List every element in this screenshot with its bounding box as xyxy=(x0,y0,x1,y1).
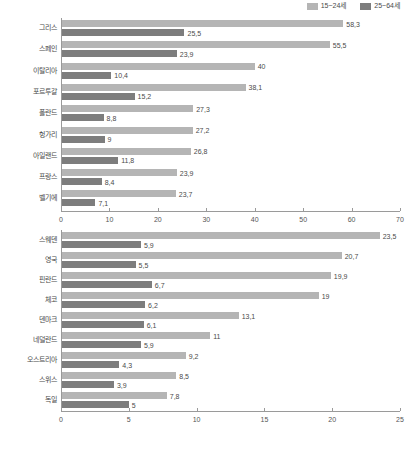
bar-series-15-24 xyxy=(61,252,342,259)
bar-series-25-64 xyxy=(61,178,102,185)
bar-value-label: 10,4 xyxy=(114,72,128,79)
bar-value-label: 19,9 xyxy=(334,272,348,279)
x-axis-tick xyxy=(400,408,401,411)
bar-value-label: 5,9 xyxy=(144,341,154,348)
category-label: 네덜란드 xyxy=(5,336,57,344)
category-label: 프랑스 xyxy=(5,173,57,181)
bar-value-label: 6,2 xyxy=(148,301,158,308)
bar-value-label: 6,1 xyxy=(147,321,157,328)
category-label: 벨기에 xyxy=(5,194,57,202)
bar-value-label: 8,4 xyxy=(105,178,115,185)
category-label: 덴마크 xyxy=(5,316,57,324)
bar-value-label: 15,2 xyxy=(138,93,152,100)
bar-series-15-24 xyxy=(61,352,186,359)
bar-value-label: 58,3 xyxy=(346,20,360,27)
bar-value-label: 8,5 xyxy=(179,372,189,379)
x-axis-tick xyxy=(264,408,265,411)
bar-series-15-24 xyxy=(61,312,239,319)
bar-series-15-24 xyxy=(61,232,380,239)
x-axis-tick-label: 40 xyxy=(251,216,259,224)
x-axis-tick-label: 30 xyxy=(202,216,210,224)
bar-value-label: 5,9 xyxy=(144,241,154,248)
category-label: 오스트리아 xyxy=(5,356,57,364)
category-label: 스페인 xyxy=(5,45,57,53)
category-label: 핀란드 xyxy=(5,276,57,284)
bar-series-15-24 xyxy=(61,372,176,379)
bar-series-25-64 xyxy=(61,50,177,57)
bar-series-25-64 xyxy=(61,157,118,164)
bar-series-25-64 xyxy=(61,341,141,348)
bar-series-25-64 xyxy=(61,321,144,328)
bar-series-25-64 xyxy=(61,381,114,388)
bar-series-25-64 xyxy=(61,361,119,368)
legend-item-25-64: 25~64세 xyxy=(360,2,400,10)
bar-series-15-24 xyxy=(61,272,331,279)
plot-area-2: 스웨덴23,55,9영국20,75,5핀란드19,96,7체코196,2덴마크1… xyxy=(0,228,406,433)
x-axis-tick xyxy=(303,208,304,211)
x-axis-tick xyxy=(109,208,110,211)
legend-label-25-64: 25~64세 xyxy=(374,2,400,10)
bar-series-15-24 xyxy=(61,41,330,48)
y-axis-line xyxy=(61,18,62,211)
bar-series-25-64 xyxy=(61,241,141,248)
bar-series-25-64 xyxy=(61,301,145,308)
legend-swatch-25-64 xyxy=(360,3,371,10)
x-axis-tick-label: 60 xyxy=(348,216,356,224)
x-axis-tick-label: 25 xyxy=(396,416,404,424)
bar-series-15-24 xyxy=(61,392,167,399)
bar-series-15-24 xyxy=(61,332,210,339)
bar-series-25-64 xyxy=(61,136,105,143)
legend-swatch-15-24 xyxy=(307,3,318,10)
bar-series-25-64 xyxy=(61,199,95,206)
x-axis-tick xyxy=(129,408,130,411)
bar-value-label: 7,8 xyxy=(170,392,180,399)
bar-value-label: 11,8 xyxy=(121,157,134,164)
bar-value-label: 23,9 xyxy=(180,169,194,176)
bar-series-15-24 xyxy=(61,84,246,91)
category-label: 독일 xyxy=(5,396,57,404)
category-label: 이탈리아 xyxy=(5,67,57,75)
bar-value-label: 25,5 xyxy=(187,29,201,36)
bar-value-label: 26,8 xyxy=(194,148,208,155)
bar-value-label: 23,9 xyxy=(180,50,194,57)
bar-series-15-24 xyxy=(61,63,255,70)
bar-value-label: 40 xyxy=(258,63,266,70)
x-axis-tick xyxy=(400,208,401,211)
bar-series-25-64 xyxy=(61,114,104,121)
x-axis-tick-label: 0 xyxy=(59,416,63,424)
category-label: 그리스 xyxy=(5,24,57,32)
category-label: 아일랜드 xyxy=(5,152,57,160)
bar-series-25-64 xyxy=(61,72,111,79)
bar-value-label: 6,7 xyxy=(155,281,165,288)
bar-series-25-64 xyxy=(61,281,152,288)
bar-value-label: 9 xyxy=(108,136,112,143)
x-axis-tick-label: 70 xyxy=(396,216,404,224)
bar-series-25-64 xyxy=(61,93,135,100)
category-label: 포르투갈 xyxy=(5,88,57,96)
plot-area-1: 그리스58,325,5스페인55,523,9이탈리아4010,4포르투갈38,1… xyxy=(0,15,406,230)
category-label: 폴란드 xyxy=(5,109,57,117)
x-axis-tick xyxy=(255,208,256,211)
x-axis-tick xyxy=(197,408,198,411)
bar-series-15-24 xyxy=(61,292,319,299)
bar-value-label: 23,5 xyxy=(383,232,397,239)
bar-value-label: 20,7 xyxy=(345,252,359,259)
bar-series-15-24 xyxy=(61,20,343,27)
bar-series-15-24 xyxy=(61,190,176,197)
bar-value-label: 13,1 xyxy=(242,312,256,319)
category-label: 스위스 xyxy=(5,376,57,384)
x-axis-tick-label: 10 xyxy=(193,416,201,424)
category-label: 체코 xyxy=(5,296,57,304)
chart-legend: 15~24세 25~64세 xyxy=(307,2,400,10)
bar-value-label: 11 xyxy=(213,332,220,339)
legend-label-15-24: 15~24세 xyxy=(321,2,347,10)
bar-value-label: 3,9 xyxy=(117,381,127,388)
bar-series-15-24 xyxy=(61,148,191,155)
bar-series-25-64 xyxy=(61,401,129,408)
bar-chart-northern-europe: 스웨덴23,55,9영국20,75,5핀란드19,96,7체코196,2덴마크1… xyxy=(0,228,406,433)
bar-value-label: 7,1 xyxy=(98,199,108,206)
bar-value-label: 4,3 xyxy=(122,361,132,368)
bar-value-label: 19 xyxy=(322,292,330,299)
bar-value-label: 27,3 xyxy=(196,105,210,112)
bar-series-15-24 xyxy=(61,127,193,134)
